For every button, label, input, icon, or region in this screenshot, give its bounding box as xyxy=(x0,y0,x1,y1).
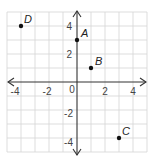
x-tick-label: 4 xyxy=(130,86,136,97)
y-tick-label: -4 xyxy=(64,137,73,148)
y-tick-label: -2 xyxy=(64,108,73,119)
y-tick-label: 4 xyxy=(66,21,72,32)
point-label: A xyxy=(80,27,88,39)
x-tick-label: -2 xyxy=(43,86,52,97)
x-tick-label: -4 xyxy=(11,86,20,97)
y-tick-label: 2 xyxy=(66,49,72,60)
origin-label: 0 xyxy=(69,84,75,95)
y-axis xyxy=(73,11,81,155)
point-label: C xyxy=(122,125,130,137)
point-label: B xyxy=(95,55,102,67)
x-tick-label: 2 xyxy=(102,86,108,97)
coordinate-plane: -4 -2 0 2 4 4 2 -2 -4 A B C D xyxy=(0,0,155,158)
point-label: D xyxy=(24,13,32,25)
